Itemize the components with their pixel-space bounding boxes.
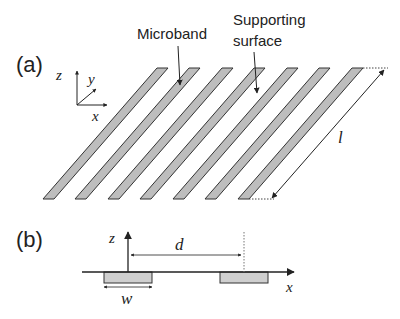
y-axis-label: y (86, 71, 95, 87)
spacing-label: d (175, 235, 184, 254)
panel-b: (b) d w z x (16, 227, 294, 308)
microband-label: Microband (137, 25, 207, 42)
microband-strip (75, 68, 200, 199)
width-label: w (121, 289, 133, 308)
microband-strips (43, 68, 363, 199)
x-axis-label-b: x (285, 279, 293, 295)
microband-array-figure: (a) z y x l Microband S (0, 0, 400, 319)
supporting-surface-label-line2: surface (233, 32, 282, 49)
panel-a: (a) z y x l Microband S (16, 11, 388, 199)
length-arrow (272, 70, 384, 198)
length-label: l (338, 128, 343, 147)
microband-cross-section-left (104, 272, 152, 283)
y-axis-arrow (77, 89, 96, 105)
microband-strip (108, 68, 233, 199)
x-axis-label: x (91, 108, 99, 124)
z-axis-label-b: z (108, 230, 115, 246)
z-axis-label: z (55, 67, 62, 83)
microband-cross-section-right (220, 272, 268, 283)
microband-strip (140, 68, 265, 199)
panel-b-label: (b) (16, 227, 43, 252)
microband-strip (205, 68, 330, 199)
supporting-surface-label-line1: Supporting (233, 11, 306, 28)
panel-a-label: (a) (16, 52, 43, 77)
microband-strip (173, 68, 298, 199)
microband-strip (43, 68, 168, 199)
